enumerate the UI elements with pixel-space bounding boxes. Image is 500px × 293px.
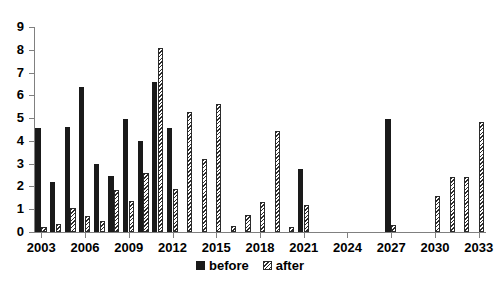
x-tick-label-2033: 2033 bbox=[464, 240, 493, 255]
y-tick-label-2: 2 bbox=[0, 181, 24, 191]
x-tick-label-2003: 2003 bbox=[27, 240, 56, 255]
bar-after-2003 bbox=[41, 227, 46, 232]
bar-after-2009 bbox=[129, 201, 134, 232]
bar-after-2020 bbox=[289, 227, 294, 232]
bar-before-2009 bbox=[123, 119, 128, 232]
bar-after-2013 bbox=[187, 112, 192, 232]
x-tick-label-2009: 2009 bbox=[114, 240, 143, 255]
bar-before-2007 bbox=[94, 164, 99, 232]
bar-before-2008 bbox=[108, 176, 113, 232]
bar-after-2032 bbox=[464, 177, 469, 232]
bar-after-2017 bbox=[245, 215, 250, 232]
chart-legend: beforeafter bbox=[0, 258, 500, 273]
y-tick-label-6: 6 bbox=[0, 90, 24, 100]
bar-after-2015 bbox=[216, 104, 221, 232]
bar-before-2005 bbox=[65, 127, 70, 232]
plot-area bbox=[34, 27, 486, 232]
bar-after-2016 bbox=[231, 226, 236, 232]
bar-after-2019 bbox=[275, 131, 280, 232]
bar-after-2010 bbox=[143, 173, 148, 232]
x-tick-2024 bbox=[347, 233, 348, 238]
x-tick-2021 bbox=[304, 233, 305, 238]
x-tick-2027 bbox=[391, 233, 392, 238]
bar-after-2030 bbox=[435, 196, 440, 232]
y-tick-0 bbox=[29, 232, 35, 233]
y-tick-label-3: 3 bbox=[0, 159, 24, 169]
bar-after-2012 bbox=[173, 189, 178, 232]
bar-before-2027 bbox=[385, 119, 390, 232]
bar-chart: 0123456789 20032006200920122015201820212… bbox=[0, 0, 500, 293]
bar-after-2027 bbox=[391, 225, 396, 232]
bar-after-2014 bbox=[202, 159, 207, 232]
legend-label-after: after bbox=[276, 258, 304, 273]
y-tick-label-0: 0 bbox=[0, 227, 24, 237]
bar-after-2011 bbox=[158, 48, 163, 233]
x-tick-label-2027: 2027 bbox=[377, 240, 406, 255]
x-tick-2006 bbox=[85, 233, 86, 238]
y-tick-label-4: 4 bbox=[0, 136, 24, 146]
y-tick-label-8: 8 bbox=[0, 45, 24, 55]
bar-after-2018 bbox=[260, 202, 265, 232]
x-tick-2033 bbox=[479, 233, 480, 238]
y-tick-label-7: 7 bbox=[0, 68, 24, 78]
bar-before-2006 bbox=[79, 87, 84, 232]
y-tick-label-1: 1 bbox=[0, 204, 24, 214]
bar-before-2011 bbox=[152, 82, 157, 232]
bar-after-2008 bbox=[114, 190, 119, 232]
bar-after-2004 bbox=[56, 224, 61, 232]
bar-before-2004 bbox=[50, 182, 55, 232]
x-tick-label-2006: 2006 bbox=[71, 240, 100, 255]
x-tick-2030 bbox=[435, 233, 436, 238]
x-tick-2003 bbox=[41, 233, 42, 238]
y-tick-label-5: 5 bbox=[0, 113, 24, 123]
x-tick-label-2018: 2018 bbox=[246, 240, 275, 255]
bar-after-2007 bbox=[100, 221, 105, 232]
legend-item-before[interactable]: before bbox=[196, 258, 249, 273]
x-tick-2009 bbox=[129, 233, 130, 238]
solid-square-marker bbox=[196, 261, 205, 270]
x-tick-label-2021: 2021 bbox=[289, 240, 318, 255]
x-tick-2018 bbox=[260, 233, 261, 238]
x-tick-label-2015: 2015 bbox=[202, 240, 231, 255]
bar-after-2031 bbox=[450, 177, 455, 232]
x-tick-label-2024: 2024 bbox=[333, 240, 362, 255]
x-tick-label-2030: 2030 bbox=[420, 240, 449, 255]
bar-after-2006 bbox=[85, 216, 90, 232]
hatched-square-marker bbox=[263, 261, 272, 270]
bar-after-2033 bbox=[479, 122, 484, 232]
x-tick-2015 bbox=[216, 233, 217, 238]
bar-after-2005 bbox=[70, 208, 75, 232]
x-tick-2012 bbox=[173, 233, 174, 238]
legend-item-after[interactable]: after bbox=[263, 258, 304, 273]
bar-after-2021 bbox=[304, 205, 309, 232]
bar-before-2010 bbox=[138, 141, 143, 232]
bar-before-2003 bbox=[35, 128, 40, 232]
legend-label-before: before bbox=[209, 258, 249, 273]
x-tick-label-2012: 2012 bbox=[158, 240, 187, 255]
bar-before-2021 bbox=[298, 169, 303, 232]
bar-before-2012 bbox=[167, 128, 172, 232]
y-tick-label-9: 9 bbox=[0, 22, 24, 32]
